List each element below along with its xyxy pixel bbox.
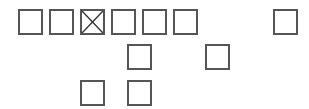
checkbox[interactable] <box>111 9 136 35</box>
checkbox[interactable] <box>273 9 298 35</box>
checkbox[interactable] <box>49 9 74 35</box>
checkbox[interactable] <box>80 80 105 106</box>
checkbox[interactable] <box>205 44 230 70</box>
checkbox[interactable] <box>127 80 152 106</box>
checkbox[interactable] <box>18 9 43 35</box>
checkbox-checked[interactable] <box>80 9 105 35</box>
checkbox[interactable] <box>142 9 167 35</box>
x-mark-icon <box>82 11 103 33</box>
checkbox[interactable] <box>127 44 152 70</box>
checkbox[interactable] <box>173 9 198 35</box>
